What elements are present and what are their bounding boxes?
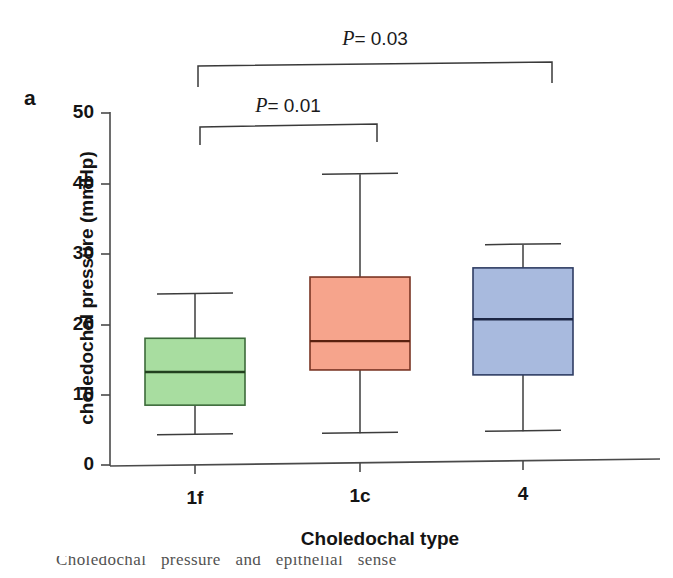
ytick-label-30: 30 xyxy=(48,242,94,264)
p-symbol-inner: P xyxy=(255,94,267,116)
xtick-label-4: 4 xyxy=(488,483,558,505)
ytick-label-0: 0 xyxy=(48,453,94,475)
box-group-1c xyxy=(310,173,410,433)
p-symbol-outer: P xyxy=(342,27,354,49)
xtick-label-1c: 1c xyxy=(325,485,395,507)
significance-bracket-outer xyxy=(198,62,552,87)
whisker-cap-upper-1c xyxy=(322,173,398,174)
boxplot-figure: a choledochal pressure (mmHp) 50 40 30 2… xyxy=(0,0,673,578)
y-axis-title: choledochal pressure (mmHp) xyxy=(76,88,98,488)
caption-strip: Choledochal pressure and epithelial sens… xyxy=(0,556,673,578)
ytick-label-50: 50 xyxy=(48,101,94,123)
caption-fragment: Choledochal pressure and epithelial sens… xyxy=(56,556,656,570)
whisker-cap-lower-1f xyxy=(157,434,233,435)
whisker-cap-lower-1c xyxy=(322,432,398,433)
whisker-cap-upper-1f xyxy=(157,293,233,294)
box-1c xyxy=(310,277,410,370)
ytick-label-20: 20 xyxy=(48,313,94,335)
panel-label: a xyxy=(24,86,36,110)
xtick-label-1f: 1f xyxy=(160,487,230,509)
p-value-outer: = 0.03 xyxy=(354,28,407,49)
ytick-label-40: 40 xyxy=(48,172,94,194)
p-value-label-outer: P= 0.03 xyxy=(265,27,485,50)
box-4 xyxy=(473,268,573,375)
p-value-inner: = 0.01 xyxy=(267,95,320,116)
box-group-1f xyxy=(145,293,245,435)
p-value-label-inner: P= 0.01 xyxy=(178,94,398,117)
box-group-4 xyxy=(473,244,573,432)
y-axis xyxy=(101,112,110,466)
ytick-label-10: 10 xyxy=(48,383,94,405)
x-axis-title: Choledochal type xyxy=(110,528,650,550)
significance-bracket-inner xyxy=(200,124,377,145)
x-axis xyxy=(110,459,660,474)
whisker-cap-lower-4 xyxy=(485,430,561,431)
whisker-cap-upper-4 xyxy=(485,244,561,245)
